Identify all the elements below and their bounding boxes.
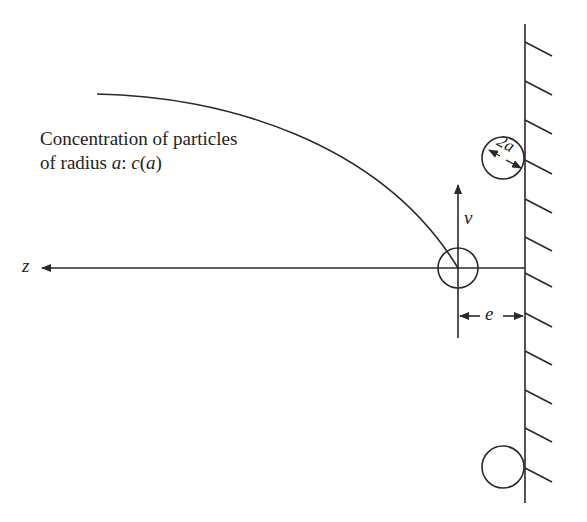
velocity-label: v (464, 207, 472, 229)
particle-lower (482, 446, 524, 488)
concentration-curve (97, 94, 458, 268)
concentration-caption: Concentration of particles of radius a: … (40, 127, 237, 175)
z-axis-label: z (22, 255, 29, 277)
caption-line-2: of radius a: c(a) (40, 151, 237, 175)
diagram-canvas (0, 0, 587, 522)
diameter-arrow-b (506, 160, 521, 168)
wall (525, 24, 552, 503)
gap-label: e (485, 303, 493, 325)
caption-line-1: Concentration of particles (40, 127, 237, 151)
